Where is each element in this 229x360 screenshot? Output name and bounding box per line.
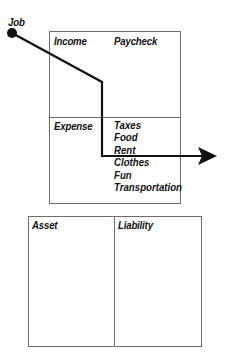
income-expense-divider [49,117,181,118]
expense-item-food: Food [114,131,182,143]
expense-item-transportation: Transportation [114,181,182,193]
job-label: Job [8,16,25,28]
balance-sheet-box [28,216,202,347]
arrowhead-right-icon [198,147,217,165]
expense-item-taxes: Taxes [114,119,182,131]
asset-label: Asset [32,219,57,231]
expense-item-fun: Fun [114,169,182,181]
expense-items-list: Taxes Food Rent Clothes Fun Transportati… [114,119,188,193]
asset-liability-divider [114,216,115,347]
paycheck-item: Paycheck [114,35,157,47]
expense-item-clothes: Clothes [114,156,182,168]
expense-item-rent: Rent [114,144,182,156]
liability-label: Liability [118,219,153,231]
job-dot-icon [7,28,17,38]
expense-label: Expense [54,120,92,132]
income-label: Income [54,35,87,47]
